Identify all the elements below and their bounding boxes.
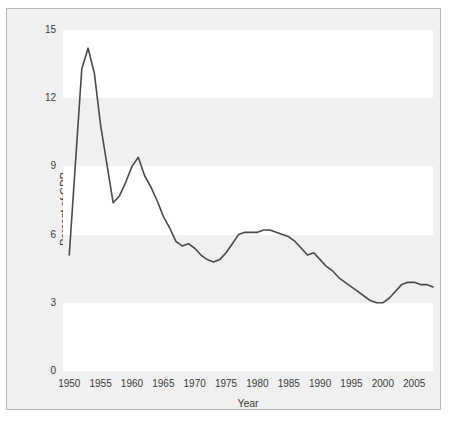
y-tick-label: 12 (45, 93, 56, 103)
x-tick-label: 1955 (90, 379, 112, 389)
y-tick-label: 3 (50, 298, 56, 308)
line-series (63, 30, 433, 371)
x-tick-label: 1985 (278, 379, 300, 389)
chart-figure: Percent of GDP 03691215 1950195519601965… (0, 0, 449, 428)
chart-panel: Percent of GDP 03691215 1950195519601965… (6, 8, 441, 410)
x-tick-label: 1970 (184, 379, 206, 389)
x-tick-label: 2005 (403, 379, 425, 389)
x-tick-label: 1950 (58, 379, 80, 389)
y-tick-label: 6 (50, 230, 56, 240)
defense-spending-line (69, 48, 433, 303)
x-tick-label: 1975 (215, 379, 237, 389)
x-tick-label: 1990 (309, 379, 331, 389)
x-tick-label: 1995 (340, 379, 362, 389)
x-axis-label: Year (63, 397, 433, 409)
y-tick-label: 0 (50, 366, 56, 376)
x-tick-label: 2000 (372, 379, 394, 389)
plot-area: 03691215 1950195519601965197019751980198… (63, 30, 433, 371)
y-tick-label: 15 (45, 25, 56, 35)
x-tick-label: 1960 (121, 379, 143, 389)
y-tick-label: 9 (50, 161, 56, 171)
x-tick-label: 1980 (246, 379, 268, 389)
x-tick-label: 1965 (152, 379, 174, 389)
